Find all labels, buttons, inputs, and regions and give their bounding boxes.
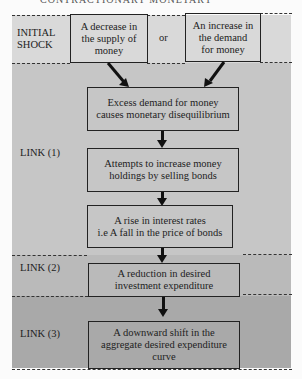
arrow-down-icon xyxy=(157,255,167,263)
link2-label: LINK (2) xyxy=(20,262,60,274)
box-line: A reduction in desired xyxy=(117,268,210,280)
arrow-down-icon xyxy=(157,140,167,148)
box-interest-rates: A rise in interest rates i.e A fall in t… xyxy=(87,205,233,248)
box-line: A downward shift in the xyxy=(113,327,215,339)
box-line: holdings by selling bonds xyxy=(109,170,217,182)
box-investment-reduction: A reduction in desired investment expend… xyxy=(88,263,240,297)
box-line: causes monetary disequilibrium xyxy=(96,109,230,121)
arrow-left-diagonal xyxy=(108,63,124,82)
arrow-down-icon xyxy=(158,309,168,317)
box-line: A rise in interest rates xyxy=(114,215,206,227)
box-selling-bonds: Attempts to increase money holdings by s… xyxy=(87,148,239,192)
link1-label: LINK (1) xyxy=(20,147,60,159)
box-line: investment expenditure xyxy=(115,280,213,292)
box-line: aggregate desired expenditure xyxy=(101,339,227,351)
box-line: i.e A fall in the price of bonds xyxy=(98,227,223,239)
box-line: Attempts to increase money xyxy=(104,158,222,170)
box-downward-shift: A downward shift in the aggregate desire… xyxy=(88,321,240,369)
link3-label: LINK (3) xyxy=(20,328,60,340)
arrow-right-diagonal xyxy=(210,62,224,81)
box-excess-demand: Excess demand for money causes monetary … xyxy=(87,87,239,131)
box-line: Excess demand for money xyxy=(107,97,218,109)
box-line: curve xyxy=(152,351,175,363)
